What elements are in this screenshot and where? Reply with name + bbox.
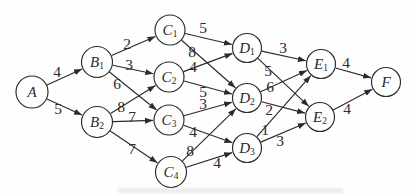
edge-weight-C3-D2: 3: [199, 95, 207, 112]
edge-C3-D2: [184, 102, 232, 116]
edge-weight-C4-D3: 4: [213, 154, 221, 171]
edge-weight-A-B2: 5: [54, 100, 62, 117]
edge-B1-C1: [112, 36, 156, 55]
edge-C2-D2: [184, 81, 232, 94]
node-label-F: F: [380, 74, 391, 90]
edge-weight-B1-C3: 6: [113, 75, 121, 92]
edge-weight-C3-D3: 4: [189, 123, 197, 140]
edge-weight-C2-D1: 4: [189, 58, 197, 75]
scan-artifact: [118, 188, 343, 193]
edge-weight-B1-C1: 2: [123, 35, 131, 52]
edge-weight-D1-E2: 5: [264, 62, 272, 79]
node-label-A: A: [26, 84, 37, 100]
edge-weight-D2-E2: 2: [265, 101, 273, 118]
edge-weight-E2-F: 4: [343, 100, 351, 117]
edge-weight-C4-D2: 8: [186, 142, 194, 159]
edge-weight-B2-C2: 8: [117, 98, 125, 115]
edge-weight-B2-C4: 7: [128, 140, 136, 157]
edge-weight-D3-E2: 3: [276, 132, 284, 149]
edge-A-B2: [47, 99, 82, 115]
edge-B1-C2: [113, 65, 154, 73]
edge-E2-F: [333, 89, 372, 110]
edge-E1-F: [335, 68, 371, 78]
edge-weight-D1-E1: 3: [279, 39, 287, 56]
network-diagram-canvas: 452368775845348435621344AB1B2C1C2C3C4D1D…: [0, 0, 411, 196]
weighted-digraph: 452368775845348435621344AB1B2C1C2C3C4D1D…: [0, 0, 411, 196]
edge-weight-B2-C3: 7: [128, 108, 136, 125]
edge-weight-D3-E1: 1: [261, 121, 269, 138]
edge-weight-E1-F: 4: [342, 54, 350, 71]
edge-weight-A-B1: 4: [53, 63, 61, 80]
edge-weight-D2-E1: 6: [266, 78, 274, 95]
edge-weight-C1-D1: 5: [199, 19, 207, 36]
edge-weight-B1-C2: 3: [125, 56, 133, 73]
